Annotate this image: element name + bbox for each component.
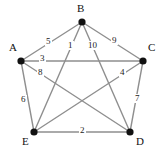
edge-weight-ae: 6: [20, 95, 27, 104]
edges-group: [21, 22, 143, 132]
edge-weight-ad: 8: [37, 68, 44, 77]
edge-weight-be: 1: [67, 41, 74, 50]
edge-weight-cd: 7: [134, 94, 141, 103]
graph-vertex-a: [17, 57, 24, 64]
graph-vertex-d: [126, 128, 133, 135]
vertex-label-e: E: [22, 136, 29, 147]
edge-weight-ed: 2: [79, 126, 86, 135]
graph-edge-be: [34, 22, 82, 132]
graph-vertex-e: [30, 128, 37, 135]
edge-weight-ce: 4: [119, 68, 126, 77]
graph-edge-ce: [34, 61, 143, 132]
vertex-label-a: A: [9, 42, 17, 53]
edge-weight-bd: 10: [87, 41, 98, 50]
vertex-label-c: C: [148, 42, 155, 53]
graph-edge-bd: [82, 22, 130, 132]
graph-figure: ABCDE 51109384762: [0, 0, 164, 155]
edge-weight-ab: 5: [45, 37, 52, 46]
edge-weight-ac: 3: [39, 54, 46, 63]
graph-vertex-b: [78, 18, 85, 25]
edge-weight-bc: 9: [111, 36, 118, 45]
vertex-label-b: B: [77, 3, 84, 14]
graph-vertex-c: [139, 57, 146, 64]
vertex-label-d: D: [136, 136, 144, 147]
